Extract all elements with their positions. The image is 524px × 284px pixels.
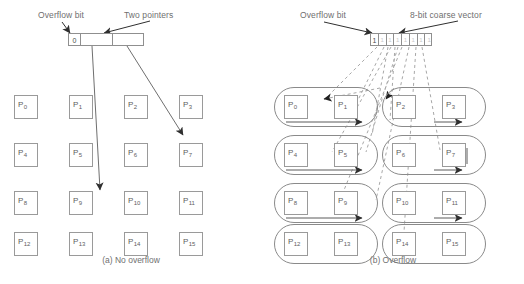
page-label: P0 (18, 101, 27, 109)
page-label: P11 (446, 197, 458, 205)
coarse-vector-bit-6: 1 (418, 34, 426, 45)
caption-b: (b) Overflow (262, 255, 524, 265)
page-box-b-P8: P8 (284, 191, 308, 215)
leader-coarse-vector (399, 21, 458, 33)
page-label: P1 (338, 101, 347, 109)
page-label: P5 (73, 149, 82, 157)
coarse-vector-bit-7: 1 (425, 34, 433, 45)
header-record-a: 0 (68, 33, 144, 46)
page-box-b-P12: P12 (284, 232, 308, 256)
page-label: P7 (183, 149, 192, 157)
page-box-b-P6: P6 (392, 143, 416, 167)
bit-value: 1 (404, 37, 407, 43)
page-box-b-P1: P1 (334, 95, 358, 119)
coarse-vector-bit-2: 1 (387, 34, 395, 45)
page-box-b-P14: P14 (392, 232, 416, 256)
page-label: P6 (396, 149, 405, 157)
page-box-b-P10: P10 (392, 191, 416, 215)
bit-value: 1 (396, 37, 399, 43)
page-box-b-P4: P4 (284, 143, 308, 167)
page-label: P10 (128, 197, 140, 205)
overflow-bit-value-a: 0 (73, 36, 77, 43)
bit-value: 1 (372, 36, 376, 43)
bit-value: 1 (380, 37, 383, 43)
page-label: P7 (446, 149, 455, 157)
page-box-b-P5: P5 (334, 143, 358, 167)
page-box-P5: P5 (69, 143, 93, 167)
overflow-bit-cell-b: 1 (371, 34, 379, 45)
page-label: P8 (288, 197, 297, 205)
leader-two-pointers (104, 21, 150, 33)
page-box-P13: P13 (69, 232, 93, 256)
pointer-arrow-to-p9 (92, 46, 100, 190)
bit-value: 1 (419, 37, 422, 43)
page-box-b-P0: P0 (284, 95, 308, 119)
caption-a: (a) No overflow (0, 255, 262, 265)
page-box-P8: P8 (14, 191, 38, 215)
page-label: P11 (183, 197, 195, 205)
page-box-P6: P6 (124, 143, 148, 167)
page-label: P12 (288, 238, 300, 246)
page-box-P11: P11 (179, 191, 203, 215)
coarse-vector-bit-1: 1 (379, 34, 387, 45)
pointer-field-1 (81, 34, 113, 45)
panel-overflow: Overflow bit 8-bit coarse vector (262, 0, 524, 284)
page-box-b-P3: P3 (442, 95, 466, 119)
page-label: P14 (128, 238, 140, 246)
bit-value: 1 (388, 37, 391, 43)
page-box-P9: P9 (69, 191, 93, 215)
page-label: P13 (73, 238, 85, 246)
overflow-bit-cell-a: 0 (69, 34, 81, 45)
page-label: P12 (18, 238, 30, 246)
page-label: P9 (338, 197, 347, 205)
page-label: P9 (73, 197, 82, 205)
page-label: P3 (183, 101, 192, 109)
page-label: P0 (288, 101, 297, 109)
page-box-P15: P15 (179, 232, 203, 256)
page-label: P4 (288, 149, 297, 157)
page-box-P1: P1 (69, 95, 93, 119)
page-box-P2: P2 (124, 95, 148, 119)
page-label: P15 (446, 238, 458, 246)
page-label: P6 (128, 149, 137, 157)
page-box-b-P7: P7 (442, 143, 466, 167)
leader-overflow-bit-b (324, 22, 372, 33)
page-label: P8 (18, 197, 27, 205)
page-label: P1 (73, 101, 82, 109)
page-box-P7: P7 (179, 143, 203, 167)
page-label: P14 (396, 238, 408, 246)
pointer-field-2 (113, 34, 145, 45)
page-label: P2 (128, 101, 137, 109)
page-box-b-P13: P13 (334, 232, 358, 256)
page-label: P13 (338, 238, 350, 246)
page-box-b-P2: P2 (392, 95, 416, 119)
page-box-P10: P10 (124, 191, 148, 215)
pointer-arrow-to-p7 (127, 46, 183, 135)
leader-overflow-bit-a (62, 22, 70, 33)
coarse-vector-bit-4: 1 (402, 34, 410, 45)
header-record-b: 11111111 (370, 33, 432, 46)
page-box-b-P11: P11 (442, 191, 466, 215)
coarse-vector-bit-5: 1 (410, 34, 418, 45)
page-label: P10 (396, 197, 408, 205)
page-box-P4: P4 (14, 143, 38, 167)
page-label: P4 (18, 149, 27, 157)
page-box-b-P9: P9 (334, 191, 358, 215)
panel-no-overflow: Overflow bit Two pointers 0 P0P1P2P3P4P5… (0, 0, 262, 284)
page-box-P0: P0 (14, 95, 38, 119)
bit-value: 1 (411, 37, 414, 43)
page-box-P14: P14 (124, 232, 148, 256)
page-label: P15 (183, 238, 195, 246)
coarse-vector-bit-3: 1 (394, 34, 402, 45)
page-label: P2 (396, 101, 405, 109)
bit-value: 1 (427, 37, 430, 43)
page-label: P3 (446, 101, 455, 109)
page-label: P5 (338, 149, 347, 157)
page-box-P12: P12 (14, 232, 38, 256)
page-box-P3: P3 (179, 95, 203, 119)
page-box-b-P15: P15 (442, 232, 466, 256)
